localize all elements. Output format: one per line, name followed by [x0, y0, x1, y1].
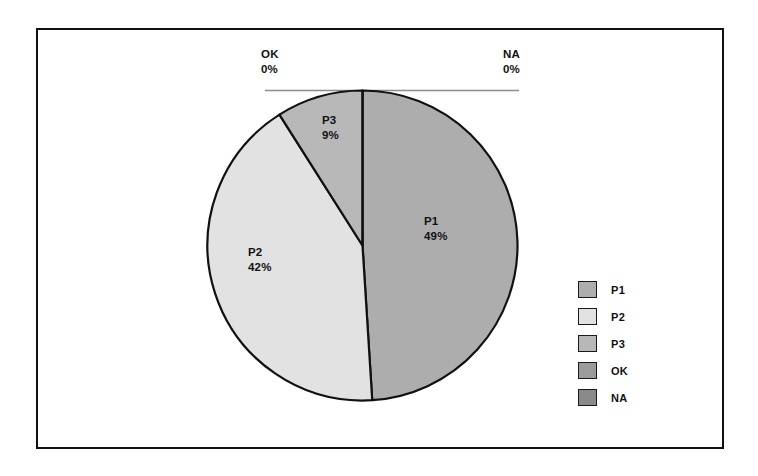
slice-label-ok-name: OK	[261, 47, 279, 62]
slice-label-p1-name: P1	[424, 214, 448, 229]
legend-item-p2[interactable]: P2	[578, 303, 668, 330]
legend-swatch-p3	[578, 335, 597, 352]
slice-label-p3: P3 9%	[322, 113, 339, 143]
pie-chart-figure: P1 49% P2 42% P3 9% OK 0% NA 0% P1P2P3OK…	[0, 0, 758, 476]
slice-label-na-value: 0%	[503, 62, 520, 77]
slice-label-ok-value: 0%	[261, 62, 279, 77]
legend-swatch-ok	[578, 362, 597, 379]
slice-label-na: NA 0%	[503, 47, 520, 77]
legend-label-p3: P3	[611, 338, 625, 350]
legend-label-ok: OK	[611, 365, 628, 377]
slice-label-p2: P2 42%	[248, 245, 272, 275]
slice-label-na-name: NA	[503, 47, 520, 62]
slice-label-ok: OK 0%	[261, 47, 279, 77]
legend-label-na: NA	[611, 392, 628, 404]
legend-item-p3[interactable]: P3	[578, 330, 668, 357]
legend-item-p1[interactable]: P1	[578, 276, 668, 303]
slice-label-p2-value: 42%	[248, 260, 272, 275]
slice-label-p1-value: 49%	[424, 229, 448, 244]
legend-swatch-p2	[578, 308, 597, 325]
slice-label-p3-name: P3	[322, 113, 339, 128]
legend-label-p1: P1	[611, 284, 625, 296]
chart-legend: P1P2P3OKNA	[578, 276, 668, 411]
legend-label-p2: P2	[611, 311, 625, 323]
legend-swatch-p1	[578, 281, 597, 298]
slice-label-p1: P1 49%	[424, 214, 448, 244]
legend-item-ok[interactable]: OK	[578, 357, 668, 384]
slice-label-p2-name: P2	[248, 245, 272, 260]
legend-swatch-na	[578, 389, 597, 406]
slice-label-p3-value: 9%	[322, 128, 339, 143]
legend-item-na[interactable]: NA	[578, 384, 668, 411]
